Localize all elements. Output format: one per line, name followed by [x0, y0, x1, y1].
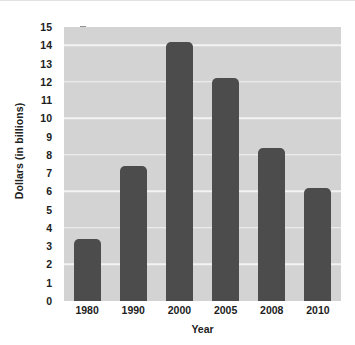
y-tick-label: 10: [40, 112, 52, 124]
y-tick-label: 8: [46, 149, 52, 161]
y-tick-label: 1: [46, 277, 52, 289]
bar: [212, 78, 239, 301]
y-tick-label: 15: [40, 21, 52, 33]
x-axis-title: Year: [64, 323, 341, 335]
y-tick-label: 12: [40, 76, 52, 88]
bar: [120, 166, 147, 301]
y-tick-label: 11: [41, 94, 52, 106]
y-axis-title-text: Dollars (in billions): [13, 103, 25, 200]
plot-area: [64, 27, 341, 301]
y-tick-label: 9: [46, 131, 52, 143]
bar: [304, 188, 331, 301]
y-tick-label: 13: [40, 58, 52, 70]
x-tick-label: 2008: [260, 304, 283, 316]
y-tick-label: 6: [46, 185, 52, 197]
y-tick-label: 4: [46, 222, 52, 234]
y-tick-label: 7: [46, 167, 52, 179]
y-tick-label: 2: [46, 258, 52, 270]
y-tick-label: 0: [46, 295, 52, 307]
bar: [166, 42, 193, 301]
bar: [74, 239, 101, 301]
x-tick-label: 2005: [214, 304, 237, 316]
y-tick-label: 5: [46, 204, 52, 216]
y-tick-label: 14: [40, 39, 52, 51]
x-axis-tick-labels: 198019902000200520082010: [64, 304, 341, 320]
bar-chart-figure: Dollars (in billions) 012345678910111213…: [0, 0, 355, 345]
bar-series: [64, 27, 341, 301]
x-tick-label: 2010: [306, 304, 329, 316]
x-tick-label: 1990: [122, 304, 145, 316]
y-tick-label: 3: [46, 240, 52, 252]
x-tick-label: 1980: [75, 304, 98, 316]
y-axis-tick-labels: 0123456789101112131415: [26, 27, 52, 301]
bar: [258, 148, 285, 301]
x-tick-label: 2000: [168, 304, 191, 316]
